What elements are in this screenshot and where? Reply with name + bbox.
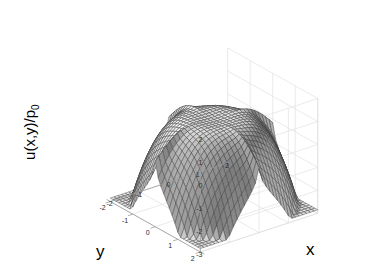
axis-tick-label: 2 <box>225 162 229 169</box>
surface-plot-svg: -2-1012210-1-2210-1-2-3 <box>0 0 392 279</box>
axis-tick-label: -3 <box>196 251 202 258</box>
axis-tick-label: 1 <box>196 171 200 178</box>
axis-tick-label: -1 <box>122 217 128 224</box>
axis-tick-label: -1 <box>196 205 202 212</box>
axis-tick-label: -2 <box>107 200 113 207</box>
axis-tick-label: 2 <box>198 136 202 143</box>
axis-tick-label: 0 <box>146 229 150 236</box>
y-axis-title: y <box>96 242 105 262</box>
z-axis-subscript: 0 <box>30 104 41 110</box>
axis-tick-label: 1 <box>168 242 172 249</box>
figure-canvas: -2-1012210-1-2210-1-2-3 y x u(x,y)/p0 <box>0 0 392 279</box>
axis-tick-label: -1 <box>136 191 142 198</box>
z-axis-title: u(x,y)/p0 <box>21 67 41 197</box>
axis-tick-label: 0 <box>166 181 170 188</box>
axis-tick-label: 1 <box>198 159 202 166</box>
axis-tick-label: 0 <box>198 182 202 189</box>
axis-tick-label: -2 <box>99 204 105 211</box>
axis-tick-label: 2 <box>191 255 195 262</box>
x-axis-title: x <box>306 240 315 260</box>
axis-tick-label: -2 <box>196 228 202 235</box>
